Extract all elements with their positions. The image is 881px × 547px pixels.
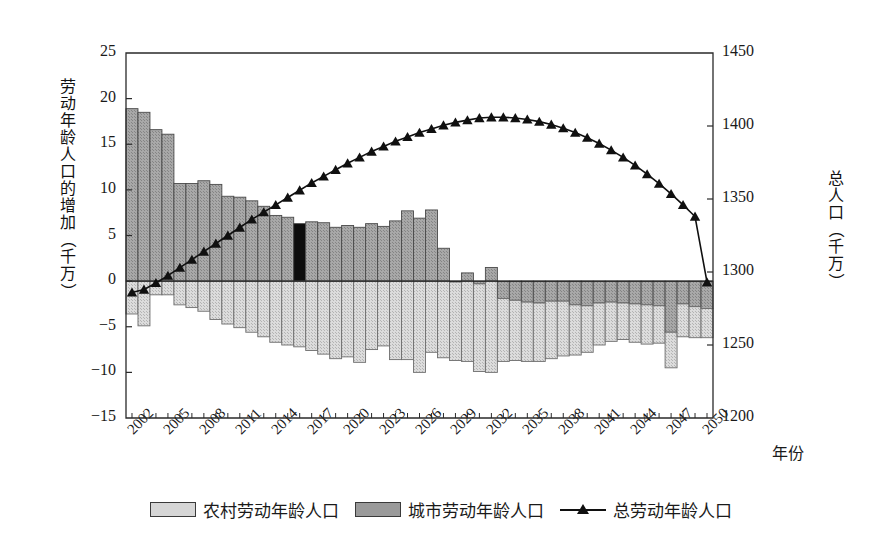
bar-urban: [354, 227, 366, 281]
bar-urban: [186, 183, 198, 281]
bar-urban: [593, 281, 605, 303]
bar-rural: [402, 281, 414, 359]
bar-rural: [425, 281, 437, 352]
bar-urban: [641, 281, 653, 305]
bar-rural: [605, 302, 617, 341]
bar-urban: [270, 215, 282, 281]
line-marker-triangle: [582, 133, 592, 142]
bar-rural: [617, 303, 629, 340]
bar-rural: [222, 281, 234, 324]
bar-urban: [557, 281, 569, 301]
bar-urban: [366, 224, 378, 281]
bar-rural: [198, 281, 210, 311]
line-marker-triangle: [390, 136, 400, 145]
bar-urban: [677, 281, 689, 304]
bar-rural: [390, 281, 402, 359]
bar-urban: [497, 281, 509, 298]
bar-urban: [378, 226, 390, 281]
bar-urban: [258, 206, 270, 281]
bar-rural: [330, 281, 342, 359]
bar-rural: [509, 300, 521, 360]
bar-rural: [461, 281, 473, 361]
line-marker-triangle: [330, 165, 340, 174]
bar-urban: [665, 281, 677, 332]
bar-urban: [545, 281, 557, 301]
bar-rural: [593, 303, 605, 345]
bar-rural: [258, 281, 270, 337]
bar-rural: [342, 281, 354, 357]
bar-urban: [138, 112, 150, 281]
bar-urban: [282, 217, 294, 281]
bar-urban: [605, 281, 617, 302]
bar-rural: [210, 281, 222, 319]
bar-urban: [581, 281, 593, 306]
bar-urban: [198, 181, 210, 281]
legend-triangle-icon: [577, 504, 589, 514]
line-marker-triangle: [354, 152, 364, 161]
bar-rural: [665, 332, 677, 368]
bar-urban: [509, 281, 521, 300]
bar-urban: [461, 273, 473, 281]
bar-urban: [617, 281, 629, 303]
bar-rural: [449, 282, 461, 360]
bar-rural: [437, 281, 449, 358]
line-marker-triangle: [570, 128, 580, 137]
line-marker-triangle: [283, 193, 293, 202]
bar-urban: [569, 281, 581, 305]
chart-legend: 农村劳动年龄人口城市劳动年龄人口总劳动年龄人口: [0, 497, 881, 522]
bar-urban: [234, 197, 246, 281]
bar-urban: [210, 184, 222, 281]
bar-urban: [162, 134, 174, 281]
bar-rural: [581, 306, 593, 353]
bar-rural: [485, 281, 497, 372]
bar-urban: [330, 227, 342, 281]
bar-urban: [390, 221, 402, 281]
line-marker-triangle: [271, 200, 281, 209]
bar-rural: [545, 301, 557, 358]
bar-rural: [533, 303, 545, 361]
legend-item[interactable]: 城市劳动年龄人口: [355, 497, 544, 522]
legend-item[interactable]: 农村劳动年龄人口: [150, 497, 339, 522]
legend-swatch: [355, 502, 401, 517]
bar-rural: [641, 305, 653, 344]
bar-urban: [653, 281, 665, 306]
line-marker-triangle: [306, 178, 316, 187]
bar-urban: [246, 201, 258, 281]
bar-urban: [414, 218, 426, 281]
line-marker-triangle: [618, 152, 628, 161]
bar-rural: [521, 302, 533, 361]
bar-rural: [126, 281, 138, 314]
legend-line-swatch: [560, 502, 606, 517]
line-marker-triangle: [295, 185, 305, 194]
line-marker-triangle: [318, 171, 328, 180]
bar-urban: [521, 281, 533, 302]
bar-rural: [569, 305, 581, 355]
bar-rural: [234, 281, 246, 328]
bar-rural: [174, 281, 186, 305]
bar-rural: [354, 281, 366, 362]
bar-urban: [425, 210, 437, 281]
bar-rural: [270, 281, 282, 342]
bar-rural: [294, 281, 306, 347]
bar-rural: [701, 309, 713, 338]
legend-label: 城市劳动年龄人口: [408, 497, 544, 522]
line-marker-triangle: [366, 147, 376, 156]
bar-rural: [306, 281, 318, 350]
bar-rural: [473, 284, 485, 372]
bar-rural: [677, 304, 689, 337]
bar-rural: [653, 306, 665, 343]
bar-urban: [306, 222, 318, 281]
line-marker-triangle: [630, 160, 640, 169]
legend-item[interactable]: 总劳动年龄人口: [560, 497, 732, 522]
bar-rural: [282, 281, 294, 345]
line-marker-triangle: [378, 142, 388, 151]
bar-urban: [402, 211, 414, 281]
bar-rural: [318, 281, 330, 354]
line-marker-triangle: [402, 132, 412, 141]
bar-urban: [437, 248, 449, 281]
bar-urban: [342, 225, 354, 281]
line-marker-triangle: [342, 158, 352, 167]
bar-urban: [126, 109, 138, 281]
bar-rural: [557, 301, 569, 356]
bar-rural: [366, 281, 378, 349]
